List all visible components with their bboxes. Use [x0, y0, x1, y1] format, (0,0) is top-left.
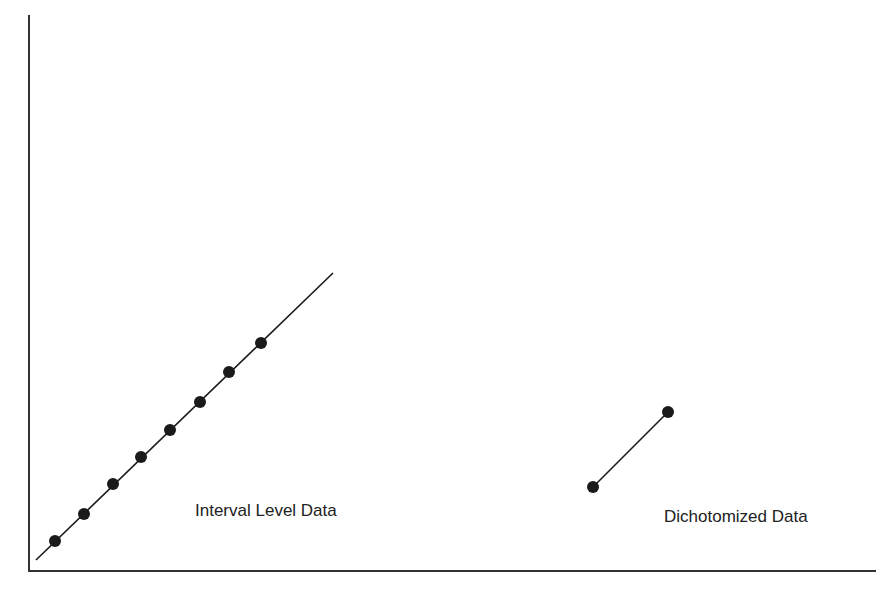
data-point — [587, 481, 599, 493]
data-point — [78, 508, 90, 520]
data-point — [223, 366, 235, 378]
interval-level-data-label: Interval Level Data — [195, 501, 337, 521]
data-point — [255, 337, 267, 349]
data-point — [49, 535, 61, 547]
trend-line — [593, 412, 668, 487]
data-series — [36, 273, 674, 560]
data-point — [662, 406, 674, 418]
dichotomized-data-label: Dichotomized Data — [664, 507, 808, 527]
data-point — [194, 396, 206, 408]
series-dichotomized-data — [587, 406, 674, 493]
data-point — [107, 478, 119, 490]
data-point — [164, 424, 176, 436]
data-point — [135, 451, 147, 463]
